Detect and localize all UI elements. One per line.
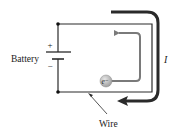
node-dot-bottom — [56, 90, 60, 94]
circuit-svg: + − Battery e⁻ I Wire — [0, 0, 178, 140]
current-label: I — [163, 54, 168, 65]
battery-minus-sign: − — [48, 61, 53, 71]
wire-label: Wire — [99, 119, 118, 129]
electron: e⁻ — [100, 75, 112, 87]
electron-label: e⁻ — [102, 77, 109, 86]
electron-path-arrow — [111, 33, 140, 81]
battery-label: Battery — [11, 54, 39, 64]
battery-plus-sign: + — [48, 40, 53, 50]
node-dot-top — [56, 22, 60, 26]
wire-pointer — [88, 93, 107, 114]
circuit-diagram: + − Battery e⁻ I Wire — [0, 0, 178, 140]
